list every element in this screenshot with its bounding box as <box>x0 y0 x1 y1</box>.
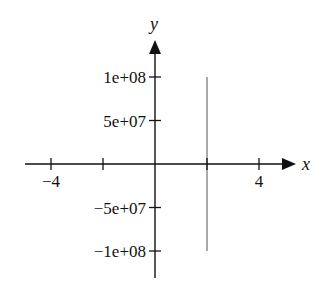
x-axis-label: x <box>301 154 310 174</box>
x-tick-label: −4 <box>42 172 61 191</box>
chart: x y −441e+085e+07−5e+07−1e+08 <box>0 0 332 297</box>
y-tick-label: 5e+07 <box>103 112 146 131</box>
y-tick-label: 1e+08 <box>103 68 146 87</box>
y-axis-arrow-icon <box>149 40 161 54</box>
axes-layer: x y <box>25 14 310 278</box>
y-tick-label: −5e+07 <box>94 199 147 218</box>
x-axis-arrow-icon <box>282 158 296 170</box>
y-axis-label: y <box>148 14 158 34</box>
x-tick-label: 4 <box>255 172 264 191</box>
y-tick-label: −1e+08 <box>94 242 146 261</box>
